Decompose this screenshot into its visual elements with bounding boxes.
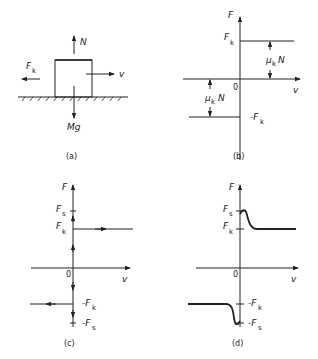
velocity-label: v	[119, 69, 125, 79]
mu-lower-label: μ	[204, 93, 211, 103]
ground-hatching	[22, 97, 121, 101]
neg-fk-label: -F	[82, 298, 91, 308]
y-axis-label: F	[229, 182, 235, 192]
x-axis-label: v	[293, 85, 299, 95]
x-axis-label: v	[122, 274, 128, 284]
panel-c-static-kinetic-graph: F v 0 F s F k -F k -F s (c)	[30, 182, 133, 348]
svg-text:k: k	[229, 228, 234, 236]
weight-label: Mg	[67, 122, 81, 132]
stribeck-curve-positive	[240, 210, 296, 229]
svg-text:N: N	[218, 93, 225, 103]
mu-upper-label: μ	[265, 55, 272, 65]
svg-text:k: k	[62, 228, 67, 236]
y-axis-label: F	[228, 10, 234, 20]
svg-text:k: k	[258, 304, 263, 312]
svg-text:k: k	[272, 60, 277, 68]
stribeck-curve-negative	[188, 304, 240, 324]
panel-b-coulomb-graph: F v 0 F k -F k μ k N μ k N (b)	[183, 10, 300, 161]
caption-d: (d)	[232, 339, 243, 348]
svg-text:k: k	[260, 118, 265, 126]
svg-text:k: k	[230, 39, 235, 47]
caption-a: (a)	[66, 152, 77, 161]
x-axis-label: v	[291, 274, 297, 284]
caption-b: (b)	[233, 152, 244, 161]
svg-text:k: k	[92, 304, 97, 312]
y-axis-label: F	[62, 182, 68, 192]
svg-text:s: s	[62, 210, 66, 218]
neg-fk-label: -F	[248, 298, 257, 308]
neg-fk-label: -F	[250, 112, 259, 122]
friction-figure: N v F k Mg (a) F v 0 F k -F k μ k N μ k	[0, 0, 318, 359]
normal-force-label: N	[80, 37, 87, 47]
svg-text:s: s	[229, 210, 233, 218]
origin-label: 0	[233, 83, 238, 92]
panel-d-stribeck-graph: F v 0 F s F k -F k -F s (d)	[188, 182, 298, 348]
caption-c: (c)	[64, 339, 75, 348]
origin-label: 0	[66, 270, 71, 279]
neg-fs-label: -F	[82, 318, 91, 328]
svg-text:k: k	[211, 98, 216, 106]
origin-label: 0	[233, 270, 238, 279]
panel-a-free-body-diagram: N v F k Mg (a)	[18, 36, 128, 161]
friction-label-sub: k	[32, 67, 37, 75]
svg-text:s: s	[258, 324, 262, 332]
neg-fs-label: -F	[248, 318, 257, 328]
svg-text:N: N	[278, 55, 285, 65]
svg-text:s: s	[92, 324, 96, 332]
